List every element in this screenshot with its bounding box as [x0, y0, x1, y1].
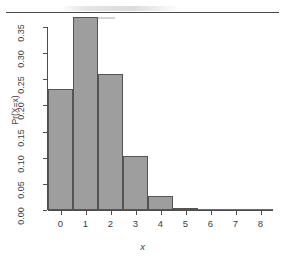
- bar: [173, 208, 198, 210]
- y-axis-title: Pr(X=x): [8, 80, 22, 140]
- x-axis-title: x: [0, 241, 285, 252]
- bars-container: [0, 0, 285, 265]
- probability-mass-chart: 0.000.050.100.150.200.250.300.35 0123456…: [0, 0, 285, 265]
- bar: [98, 74, 123, 210]
- bar: [223, 209, 248, 210]
- y-axis-title-text: Pr(X=x): [10, 86, 20, 134]
- figure-page: 0.000.050.100.150.200.250.300.35 0123456…: [0, 0, 285, 265]
- bar: [148, 196, 173, 210]
- bar: [123, 156, 148, 210]
- bar: [248, 209, 273, 210]
- bar: [198, 209, 223, 210]
- bar: [48, 89, 73, 210]
- bar: [73, 17, 98, 210]
